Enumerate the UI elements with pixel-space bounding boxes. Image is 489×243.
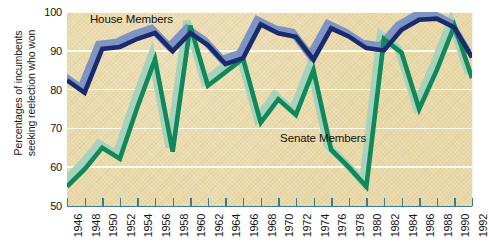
x-tick-label: 1966 bbox=[248, 214, 260, 237]
x-tick-label: 1952 bbox=[125, 214, 137, 237]
x-tick bbox=[261, 198, 262, 206]
x-tick-label: 1962 bbox=[213, 214, 225, 237]
x-tick bbox=[120, 198, 121, 206]
x-tick bbox=[296, 198, 297, 206]
x-tick bbox=[366, 198, 367, 206]
x-tick-label: 1958 bbox=[178, 214, 190, 237]
x-tick bbox=[437, 198, 438, 206]
x-tick-label: 1950 bbox=[107, 214, 119, 237]
x-tick bbox=[208, 198, 209, 206]
x-tick bbox=[173, 198, 174, 206]
x-tick bbox=[243, 198, 244, 206]
x-tick-label: 1974 bbox=[319, 214, 331, 237]
x-tick bbox=[331, 198, 332, 206]
x-axis-line bbox=[67, 206, 472, 208]
x-tick-label: 1976 bbox=[336, 214, 348, 237]
x-tick-label: 1964 bbox=[230, 214, 242, 237]
series-lines bbox=[67, 12, 472, 206]
x-tick-label: 1946 bbox=[72, 214, 84, 237]
x-tick-label: 1984 bbox=[407, 214, 419, 237]
x-tick bbox=[137, 198, 138, 206]
x-tick-label: 1982 bbox=[389, 214, 401, 237]
x-tick-label: 1992 bbox=[477, 214, 489, 237]
y-tick-label: 90 bbox=[50, 45, 62, 57]
x-tick-label: 1948 bbox=[90, 214, 102, 237]
x-tick bbox=[384, 198, 385, 206]
x-tick-label: 1990 bbox=[459, 214, 471, 237]
x-tick bbox=[402, 198, 403, 206]
y-tick-label: 70 bbox=[50, 122, 62, 134]
x-tick bbox=[419, 198, 420, 206]
y-tick-label: 100 bbox=[44, 6, 62, 18]
x-tick bbox=[67, 198, 68, 206]
x-tick-label: 1956 bbox=[160, 214, 172, 237]
x-tick bbox=[225, 198, 226, 206]
x-tick bbox=[85, 198, 86, 206]
x-tick-label: 1986 bbox=[424, 214, 436, 237]
x-tick-label: 1988 bbox=[442, 214, 454, 237]
y-tick-label: 50 bbox=[50, 200, 62, 212]
x-tick bbox=[190, 198, 191, 206]
series-label-house-members: House Members bbox=[90, 13, 173, 25]
x-tick-label: 1960 bbox=[195, 214, 207, 237]
x-tick-label: 1978 bbox=[354, 214, 366, 237]
y-tick-label: 80 bbox=[50, 84, 62, 96]
x-tick bbox=[102, 198, 103, 206]
x-tick-label: 1972 bbox=[301, 214, 313, 237]
plot-right-edge bbox=[472, 12, 473, 206]
x-tick bbox=[155, 198, 156, 206]
x-tick-label: 1980 bbox=[371, 214, 383, 237]
x-tick-label: 1954 bbox=[142, 214, 154, 237]
x-tick bbox=[278, 198, 279, 206]
y-tick-label: 60 bbox=[50, 161, 62, 173]
x-tick-label: 1970 bbox=[283, 214, 295, 237]
plot-area: House MembersSenate Members bbox=[67, 12, 472, 206]
x-tick bbox=[314, 198, 315, 206]
series-label-senate-members: Senate Members bbox=[280, 132, 366, 144]
x-tick bbox=[349, 198, 350, 206]
x-tick bbox=[454, 198, 455, 206]
y-axis-tick-labels: 5060708090100 bbox=[26, 0, 62, 243]
x-tick-label: 1968 bbox=[266, 214, 278, 237]
